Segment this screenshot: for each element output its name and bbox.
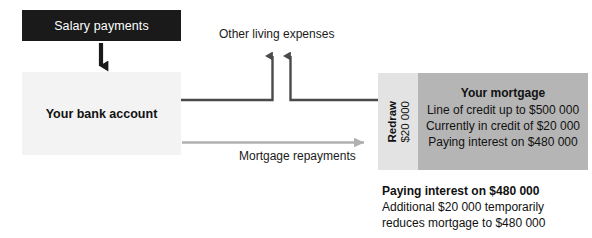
redraw-strip: Redraw $20 000: [378, 73, 418, 170]
other-living-expenses-label: Other living expenses: [219, 27, 334, 41]
mortgage-title: Your mortgage: [424, 86, 582, 101]
redraw-label: Redraw: [386, 101, 398, 143]
mortgage-repayments-label: Mortgage repayments: [239, 149, 356, 163]
redraw-amount: $20 000: [399, 101, 411, 143]
bank-to-living-expenses-arrow: [181, 56, 273, 100]
mortgage-caption: Paying interest on $480 000 Additional $…: [382, 183, 587, 232]
mortgage-box: Redraw $20 000 Your mortgage Line of cre…: [378, 73, 588, 170]
bank-account-box: Your bank account: [22, 72, 181, 155]
cashflow-diagram: Salary payments Your bank account Other …: [0, 0, 592, 238]
mortgage-detail-line: Currently in credit of $20 000: [424, 119, 582, 135]
salary-payments-label: Salary payments: [54, 19, 149, 33]
mortgage-detail-line: Paying interest on $480 000: [424, 135, 582, 151]
salary-payments-box: Salary payments: [22, 10, 181, 41]
caption-line: Additional $20 000 temporarily: [382, 199, 587, 215]
mortgage-detail-line: Line of credit up to $500 000: [424, 103, 582, 119]
mortgage-line-to-living-expenses-arrow: [291, 56, 379, 100]
caption-line: reduces mortgage to $480 000: [382, 215, 587, 231]
bank-account-label: Your bank account: [46, 107, 158, 121]
caption-title: Paying interest on $480 000: [382, 183, 587, 199]
mortgage-details: Your mortgage Line of credit up to $500 …: [418, 73, 588, 170]
